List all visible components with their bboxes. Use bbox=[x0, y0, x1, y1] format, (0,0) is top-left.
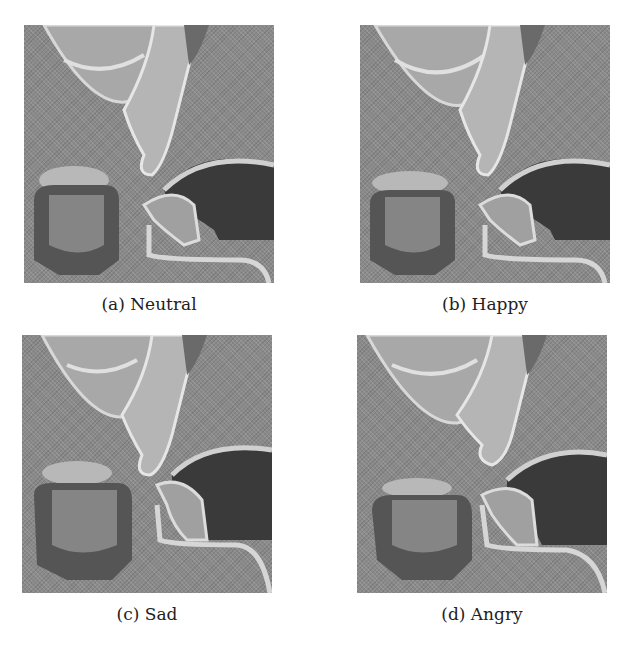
vocal-tract-illustration-sad bbox=[22, 335, 272, 593]
caption-neutral: (a) Neutral bbox=[24, 294, 274, 314]
panel-happy bbox=[360, 25, 610, 283]
panel-angry bbox=[357, 335, 607, 593]
caption-angry: (d) Angry bbox=[357, 604, 607, 624]
vocal-tract-illustration-angry bbox=[357, 335, 607, 593]
panel-neutral bbox=[24, 25, 274, 283]
vocal-tract-illustration-happy bbox=[360, 25, 610, 283]
caption-sad: (c) Sad bbox=[22, 604, 272, 624]
panel-sad bbox=[22, 335, 272, 593]
caption-happy: (b) Happy bbox=[360, 294, 610, 314]
vocal-tract-illustration-neutral bbox=[24, 25, 274, 283]
